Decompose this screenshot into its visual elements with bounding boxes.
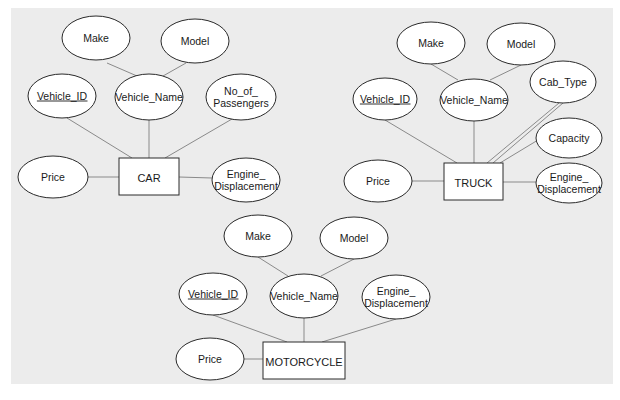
- attribute-car-vehicle-name[interactable]: Vehicle_Name: [115, 74, 183, 120]
- attribute-label: Vehicle_Name: [270, 290, 338, 302]
- attribute-label: Cab_Type: [539, 76, 587, 88]
- attribute-label-line-2: Passengers: [213, 97, 268, 109]
- attribute-label: Vehicle_Name: [115, 91, 183, 103]
- entity-truck[interactable]: TRUCK: [444, 163, 503, 200]
- er-diagram: MakeModelVehicle_IDVehicle_NameNo_of_Pas…: [0, 0, 620, 400]
- attribute-moto-vehicle-name[interactable]: Vehicle_Name: [270, 274, 338, 318]
- attribute-label: Model: [181, 35, 210, 47]
- attribute-label: Price: [198, 353, 222, 365]
- attribute-label-line-2: Displacement: [537, 183, 601, 195]
- attribute-label: Price: [41, 171, 65, 183]
- entity-motorcycle[interactable]: MOTORCYCLE: [263, 342, 345, 379]
- entity-label: CAR: [137, 172, 160, 184]
- attribute-label: Model: [507, 38, 536, 50]
- attribute-label: Vehicle_Name: [440, 94, 508, 106]
- attribute-truck-cab-type[interactable]: Cab_Type: [530, 61, 596, 103]
- entity-car[interactable]: CAR: [119, 158, 179, 195]
- attribute-truck-model[interactable]: Model: [487, 23, 555, 65]
- attribute-label-line-1: Engine_: [227, 168, 266, 180]
- attribute-truck-vehicle-id[interactable]: Vehicle_ID: [353, 78, 417, 120]
- attribute-moto-model[interactable]: Model: [320, 217, 388, 259]
- attribute-car-model[interactable]: Model: [161, 19, 229, 63]
- attribute-label-line-2: Displacement: [364, 297, 428, 309]
- attribute-label-line-2: Displacement: [214, 180, 278, 192]
- attribute-truck-price[interactable]: Price: [344, 160, 412, 202]
- attribute-moto-price[interactable]: Price: [176, 338, 244, 380]
- attribute-label: Vehicle_ID: [360, 93, 411, 105]
- attribute-label: Model: [340, 232, 369, 244]
- attribute-label-line-1: No_of_: [224, 85, 258, 97]
- entity-label: MOTORCYCLE: [265, 356, 342, 368]
- attribute-car-vehicle-id[interactable]: Vehicle_ID: [28, 74, 96, 118]
- attribute-label: Vehicle_ID: [188, 288, 239, 300]
- attribute-moto-vehicle-id[interactable]: Vehicle_ID: [179, 273, 247, 315]
- attribute-car-no-of-passengers[interactable]: No_of_Passengers: [206, 74, 276, 120]
- attribute-truck-make[interactable]: Make: [397, 22, 465, 64]
- attribute-truck-engine-displacement[interactable]: Engine_Displacement: [536, 163, 602, 203]
- attribute-car-price[interactable]: Price: [18, 156, 88, 198]
- attribute-label: Price: [366, 175, 390, 187]
- entity-label: TRUCK: [455, 177, 494, 189]
- attribute-label: Make: [245, 230, 271, 242]
- attribute-label: Make: [418, 37, 444, 49]
- attribute-moto-make[interactable]: Make: [224, 215, 292, 257]
- attribute-label: Capacity: [549, 132, 591, 144]
- attribute-label: Make: [83, 32, 109, 44]
- attribute-label-line-1: Engine_: [377, 285, 416, 297]
- attribute-car-make[interactable]: Make: [62, 16, 130, 60]
- attribute-moto-engine-displacement[interactable]: Engine_Displacement: [362, 275, 430, 319]
- attribute-truck-capacity[interactable]: Capacity: [536, 118, 602, 158]
- attribute-label: Vehicle_ID: [37, 90, 88, 102]
- attribute-car-engine-displacement[interactable]: Engine_Displacement: [212, 158, 280, 202]
- attribute-label-line-1: Engine_: [550, 171, 589, 183]
- attribute-truck-vehicle-name[interactable]: Vehicle_Name: [440, 79, 508, 121]
